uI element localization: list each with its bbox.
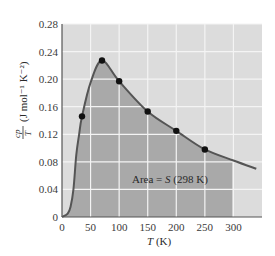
svg-text:cp: cp: [12, 129, 22, 138]
svg-text:250: 250: [197, 221, 214, 233]
svg-text:100: 100: [111, 221, 128, 233]
svg-text:50: 50: [85, 221, 97, 233]
svg-text:0.12: 0.12: [39, 128, 58, 140]
svg-text:0.08: 0.08: [39, 156, 59, 168]
svg-text:0: 0: [53, 211, 59, 223]
x-tick-labels: 050100150200250300: [59, 221, 242, 233]
x-axis-title: T (K): [147, 235, 171, 248]
svg-text:T: T: [23, 130, 33, 136]
svg-text:300: 300: [225, 221, 242, 233]
svg-text:0.24: 0.24: [39, 46, 59, 58]
data-point: [173, 128, 179, 134]
data-point: [116, 78, 122, 84]
entropy-chart: 050100150200250300 00.040.080.120.160.20…: [0, 0, 275, 256]
data-point: [79, 113, 85, 119]
y-tick-labels: 00.040.080.120.160.200.240.28: [39, 18, 59, 223]
y-axis-title: cp T (J mol⁻¹ K⁻²): [12, 61, 33, 139]
data-point: [202, 146, 208, 152]
svg-text:(J mol⁻¹ K⁻²): (J mol⁻¹ K⁻²): [17, 61, 30, 122]
data-point: [99, 57, 105, 63]
data-point: [145, 108, 151, 114]
svg-text:0.20: 0.20: [39, 73, 59, 85]
area-annotation: Area = S (298 K): [132, 173, 208, 186]
svg-text:150: 150: [139, 221, 156, 233]
svg-text:0.04: 0.04: [39, 183, 59, 195]
svg-text:200: 200: [168, 221, 185, 233]
svg-text:0.28: 0.28: [39, 18, 59, 30]
svg-text:0.16: 0.16: [39, 101, 59, 113]
svg-text:0: 0: [59, 221, 65, 233]
